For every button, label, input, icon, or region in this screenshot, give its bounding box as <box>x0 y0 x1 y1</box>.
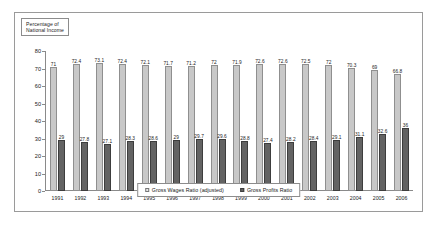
bar-gross-wages-ratio[interactable]: 71.7 <box>165 66 172 191</box>
bar-group: 72.427.8 <box>69 51 92 191</box>
chart-title-line-2: National Income <box>26 27 64 33</box>
plot-area: 01020304050607080 712972.427.873.127.172… <box>45 51 413 191</box>
y-axis-tick-mark <box>42 104 45 105</box>
bar-gross-wages-ratio[interactable]: 72.6 <box>279 64 286 191</box>
bar-value-label: 36 <box>403 123 408 128</box>
bar-gross-wages-ratio[interactable]: 66.8 <box>394 74 401 191</box>
bar-value-label: 71.7 <box>163 61 173 66</box>
bar-gross-wages-ratio[interactable]: 72.1 <box>142 65 149 191</box>
bar-value-label: 70.3 <box>347 63 357 68</box>
y-axis-tick-label: 30 <box>23 136 41 142</box>
bar-value-label: 72.4 <box>72 59 82 64</box>
bar-group: 71.229.7 <box>184 51 207 191</box>
bar-gross-profits-ratio[interactable]: 32.6 <box>379 134 386 191</box>
bar-gross-profits-ratio[interactable]: 27.1 <box>104 144 111 191</box>
y-axis-tick-label: 80 <box>23 48 41 54</box>
bar-gross-profits-ratio[interactable]: 36 <box>402 128 409 191</box>
chart-legend: Gross Wages Ratio (adjusted)Gross Profit… <box>137 183 301 197</box>
chart-frame: Percentage of National Income 0102030405… <box>14 12 423 212</box>
legend-entry[interactable]: Gross Profits Ratio <box>240 187 292 193</box>
bar-value-label: 29.1 <box>332 135 342 140</box>
y-axis-tick-label: 40 <box>23 118 41 124</box>
bar-group: 6932.6 <box>367 51 390 191</box>
bar-value-label: 72.6 <box>278 59 288 64</box>
bar-value-label: 72.4 <box>118 59 128 64</box>
legend-label: Gross Profits Ratio <box>247 187 292 193</box>
bar-value-label: 27.8 <box>80 137 90 142</box>
bar-value-label: 29 <box>59 135 64 140</box>
bar-group: 72.128.6 <box>138 51 161 191</box>
bar-gross-profits-ratio[interactable]: 28.4 <box>310 141 317 191</box>
bar-value-label: 72.6 <box>255 59 265 64</box>
bar-gross-wages-ratio[interactable]: 72.4 <box>73 64 80 191</box>
y-axis-tick-mark <box>42 121 45 122</box>
x-axis-tick-label: 2006 <box>390 195 413 201</box>
bar-gross-wages-ratio[interactable]: 71.9 <box>233 65 240 191</box>
bar-gross-wages-ratio[interactable]: 71 <box>50 67 57 191</box>
bar-value-label: 28.2 <box>286 137 296 142</box>
chart-title-box: Percentage of National Income <box>21 18 69 36</box>
bar-value-label: 71.2 <box>186 61 196 66</box>
y-axis-tick-label: 10 <box>23 171 41 177</box>
bar-gross-profits-ratio[interactable]: 29.1 <box>333 140 340 191</box>
y-axis-tick-label: 60 <box>23 83 41 89</box>
bar-groups: 712972.427.873.127.172.428.372.128.671.7… <box>46 51 413 191</box>
bar-group: 72.428.3 <box>115 51 138 191</box>
bar-group: 71.729 <box>161 51 184 191</box>
y-axis-tick-mark <box>42 69 45 70</box>
bar-gross-wages-ratio[interactable]: 72.4 <box>119 64 126 191</box>
bar-value-label: 72.1 <box>140 60 150 65</box>
legend-entry[interactable]: Gross Wages Ratio (adjusted) <box>145 187 224 193</box>
bar-group: 72.528.4 <box>298 51 321 191</box>
bar-value-label: 69 <box>372 65 377 70</box>
bar-group: 70.331.1 <box>344 51 367 191</box>
bar-value-label: 29 <box>173 135 178 140</box>
bar-gross-wages-ratio[interactable]: 71.2 <box>188 66 195 191</box>
bar-value-label: 66.8 <box>393 69 403 74</box>
bar-group: 7129 <box>46 51 69 191</box>
legend-swatch-icon <box>240 188 244 192</box>
y-axis-tick-mark <box>42 139 45 140</box>
bar-value-label: 72.5 <box>301 59 311 64</box>
bar-value-label: 28.6 <box>148 136 158 141</box>
bar-value-label: 72 <box>211 60 216 65</box>
x-axis-tick-label: 2005 <box>367 195 390 201</box>
bar-value-label: 29.7 <box>194 134 204 139</box>
y-axis-tick-mark <box>42 156 45 157</box>
bar-gross-wages-ratio[interactable]: 72.5 <box>302 64 309 191</box>
bar-group: 66.836 <box>390 51 413 191</box>
x-axis-tick-label: 1992 <box>69 195 92 201</box>
x-axis-tick-label: 2004 <box>344 195 367 201</box>
bar-value-label: 31.1 <box>355 132 365 137</box>
bar-gross-profits-ratio[interactable]: 29 <box>58 140 65 191</box>
x-axis-tick-label: 1991 <box>46 195 69 201</box>
bar-gross-wages-ratio[interactable]: 72.6 <box>256 64 263 191</box>
bar-group: 7229.1 <box>321 51 344 191</box>
x-axis-tick-label: 2003 <box>321 195 344 201</box>
x-axis-tick-label: 2002 <box>298 195 321 201</box>
y-axis-tick-label: 0 <box>23 188 41 194</box>
bar-gross-wages-ratio[interactable]: 72 <box>211 65 218 191</box>
bar-group: 73.127.1 <box>92 51 115 191</box>
bar-gross-wages-ratio[interactable]: 70.3 <box>348 68 355 191</box>
bar-value-label: 27.1 <box>103 139 113 144</box>
y-axis-tick-label: 70 <box>23 66 41 72</box>
y-axis-tick-mark <box>42 191 45 192</box>
y-axis-tick-mark <box>42 86 45 87</box>
bar-group: 72.628.2 <box>275 51 298 191</box>
y-axis-tick-label: 20 <box>23 153 41 159</box>
bar-gross-wages-ratio[interactable]: 73.1 <box>96 63 103 191</box>
bar-value-label: 28.4 <box>309 136 319 141</box>
bar-gross-profits-ratio[interactable]: 31.1 <box>356 137 363 191</box>
bar-gross-profits-ratio[interactable]: 28.3 <box>127 141 134 191</box>
x-axis-tick-label: 1993 <box>92 195 115 201</box>
bar-value-label: 32.6 <box>378 129 388 134</box>
bar-gross-profits-ratio[interactable]: 27.8 <box>81 142 88 191</box>
bar-gross-wages-ratio[interactable]: 72 <box>325 65 332 191</box>
bar-value-label: 28.8 <box>240 136 250 141</box>
bar-value-label: 28.3 <box>126 136 136 141</box>
y-axis-tick-label: 50 <box>23 101 41 107</box>
bar-value-label: 73.1 <box>95 58 105 63</box>
x-axis-tick-label: 1994 <box>115 195 138 201</box>
legend-swatch-icon <box>145 188 149 192</box>
